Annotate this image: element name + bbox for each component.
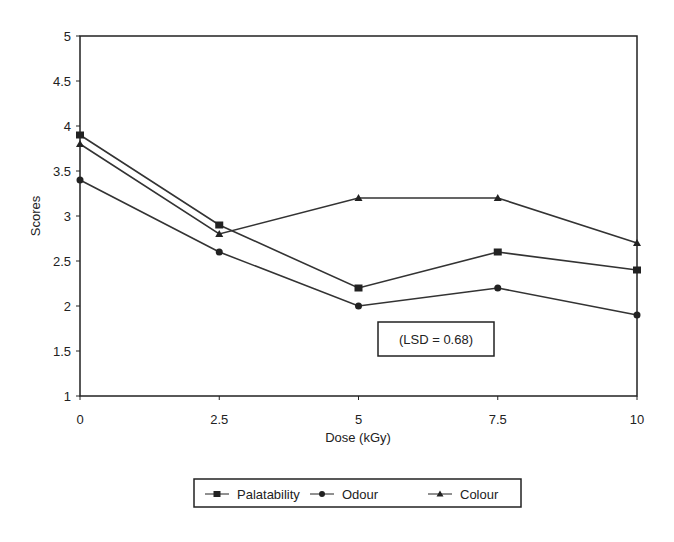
- x-tick-label: 5: [355, 412, 362, 427]
- svg-text:Palatability: Palatability: [237, 487, 300, 502]
- series-colour: [76, 140, 641, 246]
- series-lines: [76, 132, 641, 319]
- x-tick-label: 2.5: [210, 412, 228, 427]
- x-tick-label: 10: [630, 412, 644, 427]
- svg-text:Colour: Colour: [460, 487, 499, 502]
- y-axis-label: Scores: [28, 195, 43, 236]
- y-axis: 11.522.533.544.55: [53, 29, 80, 404]
- y-tick-label: 2.5: [53, 254, 71, 269]
- x-axis-label: Dose (kGy): [325, 430, 391, 445]
- y-tick-label: 5: [64, 29, 71, 44]
- x-tick-label: 0: [76, 412, 83, 427]
- legend: PalatabilityOdourColour: [194, 479, 521, 507]
- y-tick-label: 4.5: [53, 74, 71, 89]
- x-tick-label: 7.5: [489, 412, 507, 427]
- line-chart: 11.522.533.544.55 02.557.510 Scores Dose…: [0, 0, 674, 542]
- y-tick-label: 1: [64, 389, 71, 404]
- y-tick-label: 2: [64, 299, 71, 314]
- y-tick-label: 1.5: [53, 344, 71, 359]
- lsd-text: (LSD = 0.68): [399, 332, 473, 347]
- y-tick-label: 3.5: [53, 164, 71, 179]
- lsd-annotation: (LSD = 0.68): [378, 322, 494, 356]
- x-axis: 02.557.510: [76, 396, 644, 427]
- series-palatability: [76, 132, 641, 292]
- y-tick-label: 4: [64, 119, 71, 134]
- svg-text:Odour: Odour: [342, 487, 379, 502]
- y-tick-label: 3: [64, 209, 71, 224]
